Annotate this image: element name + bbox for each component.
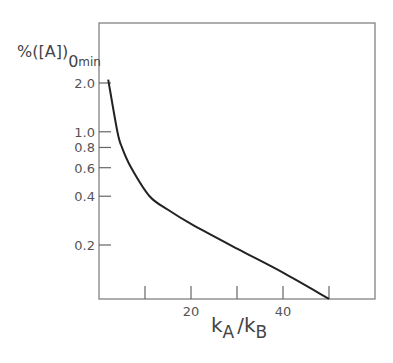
y-tick-label: 0.8 [74, 140, 95, 155]
x-tick-label: 40 [275, 304, 292, 319]
data-curve [108, 80, 329, 299]
x-axis-title: kA/kB [211, 313, 267, 342]
y-tick-label: 0.6 [74, 161, 95, 176]
y-axis-title: %([A])0min [17, 42, 101, 71]
y-tick-label: 2.0 [74, 76, 95, 91]
x-tick-label: 20 [183, 304, 200, 319]
y-tick-label: 1.0 [74, 125, 95, 140]
plot-frame [99, 23, 375, 299]
y-axis-ticks: 2.01.00.80.60.40.2 [74, 76, 111, 253]
y-tick-label: 0.2 [74, 238, 95, 253]
y-tick-label: 0.4 [74, 189, 95, 204]
chart: 2.01.00.80.60.40.2 2040 %([A])0min kA/kB [0, 0, 393, 363]
